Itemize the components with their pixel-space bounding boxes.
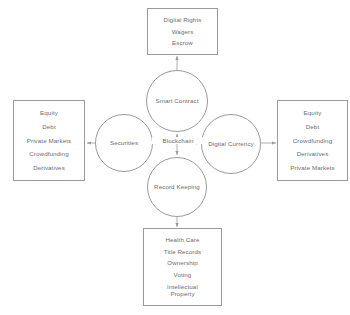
node-securities: Securities [95,114,153,172]
digital-currency-applications-box: Equity Debt Crowdfunding Derivatives Pri… [277,100,348,181]
list-item: Derivatives [297,150,329,158]
list-item: Intellectual Property [167,283,198,299]
list-item: Title Records [164,248,202,256]
node-label: Smart Contract [155,97,198,104]
list-item: Crowdfunding [293,137,332,145]
securities-applications-box: Equity Debt Private Markets Crowdfunding… [13,100,85,181]
list-item: Private Markets [27,137,71,145]
list-item: Debt [42,123,55,131]
list-item: Derivatives [33,164,65,172]
list-item: Voting [174,271,192,279]
list-item: Equity [304,109,322,117]
node-label: Securities [110,139,138,146]
record-keeping-applications-box: Health Care Title Records Ownership Voti… [143,228,222,306]
list-item: Private Markets [290,164,334,172]
list-item: Equity [40,109,58,117]
hub-label-blockchain: Blockchain [152,137,204,144]
diagram-canvas: Digital Rights Wagers Escrow Equity Debt… [0,0,350,315]
list-item: Wagers [172,28,194,36]
list-item: Ownership [167,259,197,267]
smart-contract-applications-box: Digital Rights Wagers Escrow [147,8,218,55]
node-label: Digital Currency [208,140,254,147]
list-item: Escrow [172,39,193,47]
node-record-keeping: Record Keeping [147,157,207,217]
node-smart-contract: Smart Contract [146,70,208,132]
node-digital-currency: Digital Currency [201,114,261,174]
list-item: Health Care [165,236,199,244]
list-item: Crowdfunding [29,150,68,158]
node-label: Record Keeping [154,183,200,190]
list-item: Debt [306,123,319,131]
list-item: Digital Rights [164,16,202,24]
